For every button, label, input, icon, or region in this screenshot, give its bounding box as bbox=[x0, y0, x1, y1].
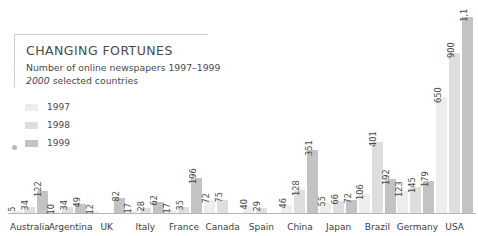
bar-value-label: 196 bbox=[189, 168, 197, 184]
bar-group: 123145179 bbox=[397, 181, 436, 213]
bar-value-label: 28 bbox=[137, 201, 145, 211]
bar-group: 4029 bbox=[242, 206, 281, 213]
bar-group: 46128351 bbox=[281, 150, 320, 213]
bar-usa-1997: 650 bbox=[436, 97, 447, 213]
bar-value-label: 106 bbox=[356, 184, 364, 200]
bar-brazil-1997: 106 bbox=[359, 194, 370, 213]
bar-value-label: 179 bbox=[421, 171, 429, 187]
category-label-uk: UK bbox=[87, 222, 126, 232]
bar-value-label: 123 bbox=[395, 181, 403, 197]
bar-value-label: 72 bbox=[343, 193, 351, 203]
bar-china-1998: 128 bbox=[294, 190, 305, 213]
bar-argentina-1998: 34 bbox=[62, 207, 73, 213]
bar-canada-1998: 75 bbox=[217, 200, 228, 213]
bar-rect bbox=[462, 17, 473, 213]
bar-value-label: 29 bbox=[253, 201, 261, 211]
category-label-canada: Canada bbox=[203, 222, 242, 232]
bar-value-label: 122 bbox=[34, 181, 42, 197]
bar-value-label: 34 bbox=[60, 200, 68, 210]
bar-group: 1282 bbox=[87, 198, 126, 213]
category-label-australia: Australia bbox=[10, 222, 49, 232]
bar-value-label: 12 bbox=[85, 204, 93, 214]
bar-value-label: 650 bbox=[433, 87, 441, 103]
bar-value-label: 72 bbox=[201, 193, 209, 203]
category-label-japan: Japan bbox=[319, 222, 358, 232]
bar-group: 106401192 bbox=[358, 142, 397, 213]
category-label-germany: Germany bbox=[397, 222, 436, 232]
bar-value-label: 145 bbox=[408, 177, 416, 193]
bar-group: 103449 bbox=[49, 204, 88, 213]
bar-china-1997: 46 bbox=[281, 205, 292, 213]
bar-group: 6509001,1 bbox=[435, 17, 474, 213]
bar-value-label: 128 bbox=[292, 180, 300, 196]
bar-australia-1997: 5 bbox=[11, 211, 22, 213]
bar-germany-1999: 179 bbox=[423, 181, 434, 213]
bar-uk-1997: 12 bbox=[88, 211, 99, 213]
chart-container: CHANGING FORTUNES Number of online newsp… bbox=[0, 0, 478, 236]
category-label-brazil: Brazil bbox=[358, 222, 397, 232]
bar-value-label: 35 bbox=[176, 200, 184, 210]
bar-rect bbox=[449, 53, 460, 213]
bar-value-label: 10 bbox=[47, 204, 55, 214]
bar-usa-1999: 1,1 bbox=[462, 17, 473, 213]
category-label-argentina: Argentina bbox=[49, 222, 88, 232]
bar-value-label: 82 bbox=[111, 191, 119, 201]
bar-value-label: 5 bbox=[8, 206, 16, 211]
bar-france-1997: 17 bbox=[165, 210, 176, 213]
x-axis-baseline bbox=[8, 213, 476, 214]
bar-group: 556672 bbox=[319, 200, 358, 213]
bar-value-label: 55 bbox=[317, 196, 325, 206]
category-label-usa: USA bbox=[435, 222, 474, 232]
bar-value-label: 17 bbox=[163, 203, 171, 213]
bar-value-label: 40 bbox=[240, 199, 248, 209]
bar-australia-1998: 34 bbox=[24, 207, 35, 213]
bar-value-label: 401 bbox=[369, 132, 377, 148]
bar-france-1998: 35 bbox=[178, 207, 189, 213]
bar-group: 1735196 bbox=[165, 178, 204, 213]
category-label-spain: Spain bbox=[242, 222, 281, 232]
bar-group: 7275 bbox=[203, 200, 242, 213]
bar-japan-1997: 55 bbox=[320, 203, 331, 213]
bar-value-label: 62 bbox=[150, 195, 158, 205]
category-label-france: France bbox=[165, 222, 204, 232]
bar-value-label: 900 bbox=[446, 43, 454, 59]
bar-value-label: 351 bbox=[305, 141, 313, 157]
bar-rect bbox=[436, 97, 447, 213]
category-label-italy: Italy bbox=[126, 222, 165, 232]
bar-group: 172862 bbox=[126, 202, 165, 213]
bar-japan-1999: 72 bbox=[346, 200, 357, 213]
bar-value-label: 192 bbox=[382, 169, 390, 185]
plot-area: 534122Australia103449Argentina1282UK1728… bbox=[0, 0, 478, 236]
bar-germany-1997: 123 bbox=[397, 191, 408, 213]
bar-value-label: 46 bbox=[279, 198, 287, 208]
bar-germany-1998: 145 bbox=[410, 187, 421, 213]
bar-argentina-1997: 10 bbox=[49, 211, 60, 213]
bar-value-label: 17 bbox=[124, 203, 132, 213]
bar-value-label: 66 bbox=[330, 194, 338, 204]
bar-group: 534122 bbox=[10, 191, 49, 213]
bar-value-label: 49 bbox=[73, 197, 81, 207]
bar-value-label: 75 bbox=[214, 192, 222, 202]
bar-spain-1998: 29 bbox=[256, 208, 267, 213]
bar-italy-1998: 28 bbox=[140, 208, 151, 213]
category-label-china: China bbox=[281, 222, 320, 232]
bar-usa-1998: 900 bbox=[449, 53, 460, 213]
bar-value-label: 34 bbox=[21, 200, 29, 210]
bar-value-label: 1,1 bbox=[459, 8, 467, 21]
